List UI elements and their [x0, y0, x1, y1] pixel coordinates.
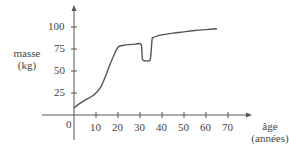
x-tick-label: 30: [134, 121, 145, 133]
y-axis-label-line1: masse: [7, 47, 47, 59]
x-tick-label: 40: [156, 121, 167, 133]
y-axis-label-line2: (kg): [7, 59, 47, 71]
x-axis-arrow-icon: [246, 113, 252, 118]
y-tick-label: 100: [48, 20, 65, 32]
origin-label: 0: [66, 118, 72, 130]
y-tick-label: 50: [54, 64, 65, 76]
y-tick-label: 25: [54, 86, 65, 98]
x-tick-label: 20: [112, 121, 123, 133]
y-axis-label: masse (kg): [7, 47, 47, 71]
x-tick-label: 60: [200, 121, 211, 133]
x-tick-label: 10: [90, 121, 101, 133]
x-axis-label-line1: âge: [250, 120, 289, 132]
y-axis-arrow-icon: [72, 5, 77, 11]
x-axis-label: âge (années): [250, 120, 289, 144]
x-axis-label-line2: (années): [250, 132, 289, 144]
x-tick-label: 50: [178, 121, 189, 133]
axes: [42, 5, 252, 140]
x-tick-label: 70: [222, 121, 233, 133]
mass-curve: [74, 29, 217, 108]
y-tick-label: 75: [54, 42, 65, 54]
